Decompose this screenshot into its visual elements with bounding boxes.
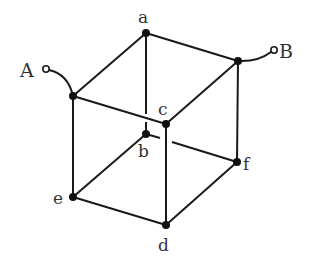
node-b <box>142 130 150 138</box>
node-tl <box>69 92 77 100</box>
node-a <box>142 29 150 37</box>
node-c <box>162 120 170 128</box>
label-a: a <box>138 7 148 27</box>
terminal-B-icon <box>271 47 277 53</box>
lead-A <box>49 70 73 96</box>
node-e <box>69 193 77 201</box>
edge-d-f <box>166 162 237 225</box>
lead-B <box>238 52 271 61</box>
node-f <box>233 158 241 166</box>
label-c: c <box>158 99 168 119</box>
label-b: b <box>138 141 149 161</box>
node-d <box>162 221 170 229</box>
edge-b-f-right <box>172 142 237 162</box>
label-B: B <box>279 40 293 62</box>
terminal-A-icon <box>43 66 49 72</box>
node-tr <box>234 57 242 65</box>
edge-c-tr <box>166 61 238 124</box>
edge-tr-f <box>237 61 238 162</box>
label-A: A <box>19 59 34 81</box>
edge-tl-a <box>73 33 146 96</box>
label-d: d <box>158 235 169 255</box>
edge-tl-c <box>73 96 166 124</box>
edge-e-b <box>73 134 146 197</box>
cube-circuit-diagram: A B a c b e f d <box>0 0 310 279</box>
label-e: e <box>53 188 63 208</box>
label-f: f <box>243 154 251 174</box>
edge-e-d <box>73 197 166 225</box>
edge-a-tr <box>146 33 238 61</box>
